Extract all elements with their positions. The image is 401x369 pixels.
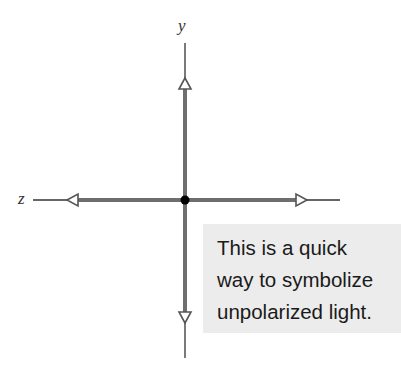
note-line-3: unpolarized light.	[217, 296, 401, 328]
origin-dot	[181, 196, 190, 205]
y-axis-label: y	[178, 16, 186, 36]
arrowhead-left-icon	[67, 194, 78, 206]
note-line-1: This is a quick	[217, 232, 401, 264]
z-axis-label: z	[18, 189, 25, 209]
note-line-2: way to symbolize	[217, 264, 401, 296]
arrowhead-down-icon	[179, 312, 191, 323]
explanation-note: This is a quick way to symbolize unpolar…	[203, 224, 401, 333]
arrowhead-right-icon	[296, 194, 307, 206]
arrowhead-up-icon	[179, 78, 191, 89]
